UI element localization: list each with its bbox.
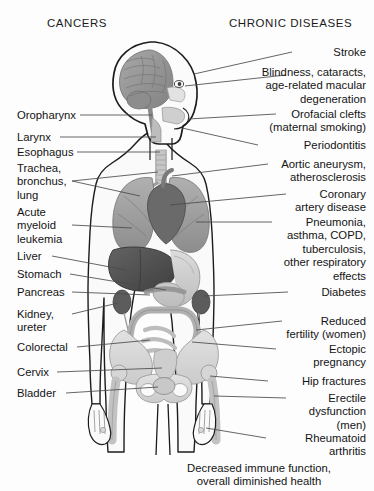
chronic-label-reduced-fertility-women: Reduced fertility (women) [286, 315, 366, 342]
chronic-label-stroke: Stroke [333, 46, 366, 59]
cancer-label-trachea-bronchus-lung: Trachea, bronchus, lung [17, 162, 67, 202]
cancer-label-liver: Liver [17, 250, 42, 263]
chronic-label-periodontitis: Periodontitis [304, 139, 366, 152]
cancer-label-kidney-ureter: Kidney, ureter [17, 308, 54, 335]
cancer-label-colorectal: Colorectal [17, 341, 68, 354]
cancer-label-oropharynx: Oropharynx [17, 109, 76, 122]
cancer-label-cervix: Cervix [17, 366, 49, 379]
column-header-chronic-diseases: CHRONIC DISEASES [229, 17, 352, 29]
chronic-label-blindness-cataracts-age-related-macular-: Blindness, cataracts, age-related macula… [262, 66, 366, 106]
column-header-cancers: CANCERS [47, 17, 107, 29]
cancer-label-bladder: Bladder [17, 387, 56, 400]
diagram-root: CANCERS CHRONIC DISEASES Decreased immun… [0, 0, 374, 491]
cancer-label-pancreas: Pancreas [17, 286, 65, 299]
footer-note: Decreased immune function, overall dimin… [150, 462, 368, 489]
chronic-label-orofacial-clefts-maternal-smoking: Orofacial clefts (maternal smoking) [269, 108, 366, 135]
chronic-label-aortic-aneurysm-atherosclerosis: Aortic aneurysm, atherosclerosis [281, 158, 366, 185]
chronic-label-coronary-artery-disease: Coronary artery disease [295, 188, 366, 215]
cancer-label-stomach: Stomach [17, 268, 62, 281]
chronic-label-erectile-dysfunction-men: Erectile dysfunction (men) [309, 392, 366, 432]
cancer-label-acute-myeloid-leukemia: Acute myeloid leukemia [17, 206, 62, 246]
cancer-label-esophagus: Esophagus [17, 146, 74, 159]
chronic-label-diabetes: Diabetes [321, 286, 366, 299]
chronic-label-ectopic-pregnancy: Ectopic pregnancy [313, 343, 366, 370]
chronic-label-rheumatoid-arthritis: Rheumatoid arthritis [305, 432, 366, 459]
chronic-label-hip-fractures: Hip fractures [302, 375, 366, 388]
head-region [113, 42, 197, 160]
chronic-label-pneumonia-asthma-copd-tuberculosis-other: Pneumonia, asthma, COPD, tuberculosis, o… [284, 216, 366, 283]
cancer-label-larynx: Larynx [17, 131, 51, 144]
